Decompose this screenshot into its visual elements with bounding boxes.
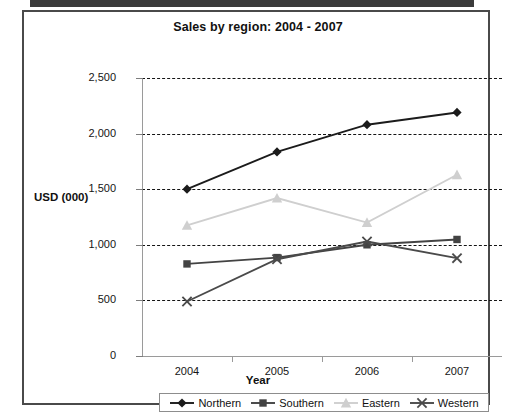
- y-tick-label: 1,500: [52, 182, 116, 194]
- triangle-marker-icon: [333, 397, 359, 409]
- chart-page: Sales by region: 2004 - 2007 USD (000) Y…: [0, 0, 508, 415]
- x-tick-label: 2005: [247, 365, 307, 377]
- x-tick-label: 2004: [157, 365, 217, 377]
- x-tick-label: 2007: [427, 365, 487, 377]
- cross-marker-icon: [409, 397, 435, 409]
- y-tick-label: 2,000: [52, 127, 116, 139]
- legend-label: Southern: [279, 397, 324, 409]
- x-tick-label: 2006: [337, 365, 397, 377]
- plot-inner: 05001,0001,5002,0002,5002004200520062007: [120, 68, 502, 366]
- diamond-marker-icon: [169, 397, 195, 409]
- legend-label: Western: [438, 397, 479, 409]
- series-northern: [182, 108, 461, 194]
- y-tick-label: 500: [52, 293, 116, 305]
- legend-label: Eastern: [362, 397, 400, 409]
- chart-legend: NorthernSouthernEasternWestern: [159, 393, 489, 412]
- series-eastern: [182, 170, 462, 230]
- y-tick-label: 2,500: [52, 71, 116, 83]
- scan-artifact-edge: [0, 7, 508, 9]
- legend-item-northern[interactable]: Northern: [169, 397, 241, 409]
- square-marker-icon: [250, 397, 276, 409]
- y-tick-label: 1,000: [52, 238, 116, 250]
- legend-item-southern[interactable]: Southern: [250, 397, 324, 409]
- chart-title: Sales by region: 2004 - 2007: [24, 20, 492, 34]
- plot-area: 05001,0001,5002,0002,5002004200520062007: [120, 68, 502, 366]
- legend-label: Northern: [198, 397, 241, 409]
- series-layer: [120, 68, 502, 366]
- legend-item-western[interactable]: Western: [409, 397, 479, 409]
- scan-artifact-bar: [30, 0, 474, 7]
- legend-item-eastern[interactable]: Eastern: [333, 397, 400, 409]
- y-tick-label: 0: [52, 349, 116, 361]
- series-western: [182, 237, 461, 306]
- chart-frame: Sales by region: 2004 - 2007 USD (000) Y…: [22, 10, 490, 405]
